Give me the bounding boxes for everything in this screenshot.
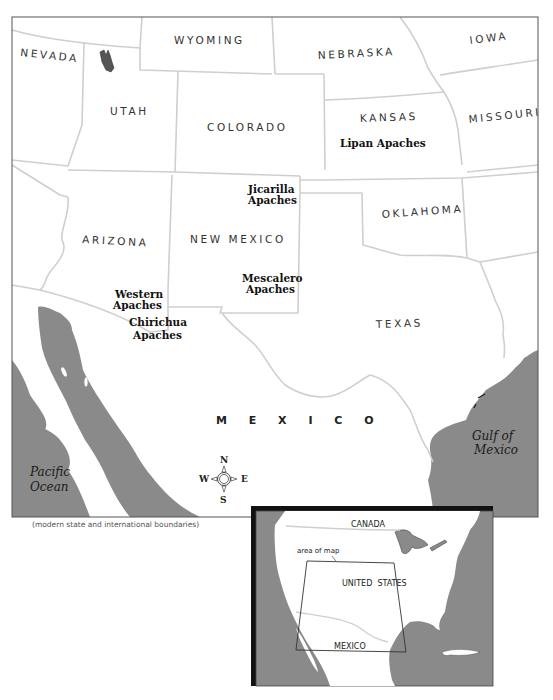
tribe-label-mescalero-line2: Apaches	[245, 283, 295, 295]
state-label-colorado: COLORADO	[207, 121, 288, 133]
state-label-wyoming: WYOMING	[174, 34, 245, 46]
water-label-pacific-line2: Ocean	[30, 480, 69, 494]
inset-label-united-states: UNITED STATES	[342, 579, 407, 588]
water-label-gulf-line1: Gulf of	[472, 429, 516, 443]
tribe-label-western-line2: Apaches	[112, 299, 162, 311]
country-label-mexico: M E X I C O	[216, 414, 383, 427]
tribe-label-jicarilla-line2: Apaches	[247, 194, 297, 206]
water-label-gulf-line2: Mexico	[473, 443, 518, 457]
compass-west: W	[198, 474, 210, 484]
state-label-new-mexico: NEW MEXICO	[190, 233, 286, 245]
map-canvas: NEVADA UTAH WYOMING NEBRASKA IOWA COLORA…	[0, 0, 553, 700]
map-caption: (modern state and international boundari…	[32, 520, 199, 529]
state-label-kansas: KANSAS	[360, 110, 418, 124]
tribe-label-chirichua-line2: Apaches	[132, 329, 182, 341]
apache-territory-map: NEVADA UTAH WYOMING NEBRASKA IOWA COLORA…	[0, 0, 553, 700]
state-label-utah: UTAH	[110, 105, 149, 117]
compass-south: S	[220, 495, 227, 505]
compass-east: E	[241, 474, 248, 484]
tribe-label-chirichua-line1: Chirichua	[129, 316, 187, 328]
inset-label-mexico: MEXICO	[334, 642, 366, 651]
inset-locator-map: CANADA area of map UNITED STATES MEXICO	[251, 506, 493, 686]
water-label-pacific-line1: Pacific	[29, 465, 70, 479]
inset-label-area-of-map: area of map	[297, 547, 340, 555]
state-label-texas: TEXAS	[375, 316, 423, 330]
tribe-label-lipan-apaches: Lipan Apaches	[340, 137, 426, 149]
inset-label-canada: CANADA	[351, 520, 386, 529]
compass-north: N	[220, 455, 228, 465]
